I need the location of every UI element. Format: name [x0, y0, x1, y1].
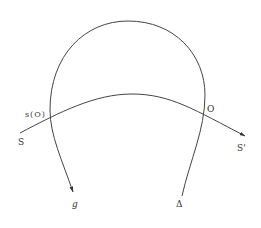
label-S-prime: S' — [237, 143, 246, 153]
loop-curve — [50, 21, 205, 196]
s-curve — [20, 94, 245, 136]
diagram-canvas: s(O) S O S' g Δ — [0, 0, 261, 228]
label-s-O: s(O) — [25, 110, 46, 119]
label-S: S — [18, 137, 24, 147]
label-O: O — [207, 104, 214, 114]
label-delta: Δ — [176, 199, 183, 209]
label-g: g — [72, 199, 78, 209]
